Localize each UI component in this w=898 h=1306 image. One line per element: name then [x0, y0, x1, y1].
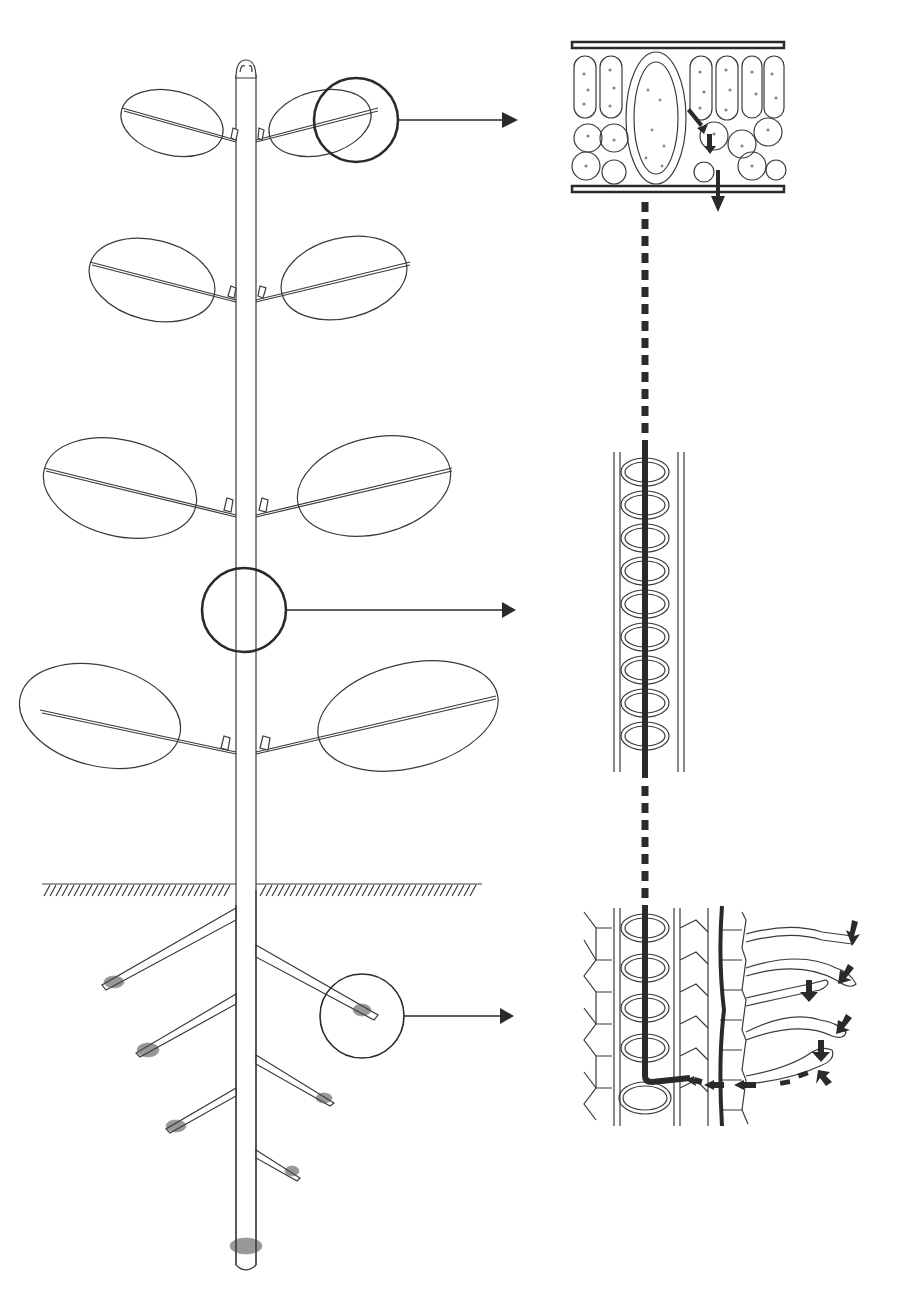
- root-hairs-detail: [746, 927, 856, 1084]
- callout-root: [320, 974, 514, 1058]
- root-hairs: [104, 976, 371, 1254]
- leaf-cross-section: [572, 42, 786, 212]
- plant-water-transport-diagram: [0, 0, 898, 1306]
- leaf-pair-1: [114, 79, 378, 166]
- root-system: [102, 890, 378, 1265]
- root-inflow-arrows: [686, 920, 860, 1090]
- leaf-pair-2: [80, 224, 416, 335]
- callout-stem: [202, 568, 516, 652]
- leaf-pair-3: [33, 421, 462, 554]
- xylem-vessel-stem: [614, 440, 684, 778]
- root-tissue-section: [584, 905, 860, 1126]
- soil-surface: [42, 884, 482, 896]
- leaf-pair-4: [8, 643, 510, 788]
- plant-stem: [236, 60, 256, 1270]
